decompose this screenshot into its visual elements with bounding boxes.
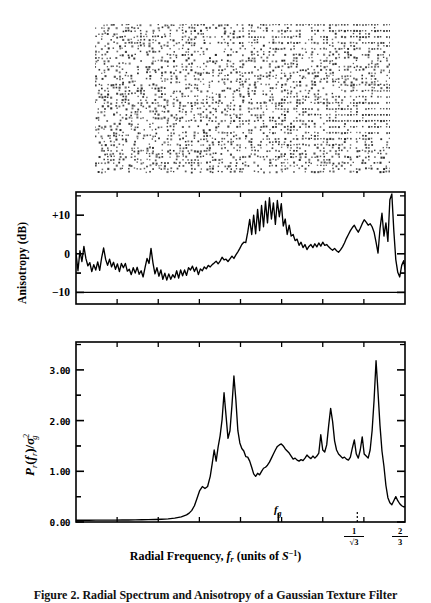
x-axis-label-var-sub: r [231,555,234,564]
x-axis-units-close: ) [297,549,301,563]
y-tick-label: 0 [64,248,70,260]
x-axis-units-exp: −1 [289,549,298,558]
tick-label-two-thirds: 2 3 [392,527,408,546]
y-tick-label: +10 [52,209,70,221]
y-tick-label: 1.00 [50,466,71,477]
anisotropy-y-axis-label: Anisotropy (dB) [16,222,28,304]
radial-spectrum-plot: Pr(fr)/σ2g 3.002.001.000.00 [0,336,431,530]
anisotropy-plot: Anisotropy (dB) +100−10 [0,186,431,311]
data-curve [76,194,405,280]
plot-frame [76,342,405,522]
x-axis-units-open: (units of [237,549,279,563]
fg-marker-label: fg [274,503,281,518]
spectrum-svg: 3.002.001.000.00 [0,336,431,530]
texture-stimulus-image [95,24,390,174]
data-curve [76,361,405,520]
figure-caption: Figure 2. Radial Spectrum and Anisotropy… [0,588,431,603]
x-axis-label: Radial Frequency, fr (units of S−1) [0,549,431,564]
spectrum-y-axis-label: Pr(fr)/σ2g [22,436,39,476]
y-tick-label: 2.00 [50,416,71,427]
x-axis-label-main: Radial Frequency, [130,549,224,563]
texture-canvas [95,24,390,174]
tick-label-inv-sqrt3: 1 √3 [344,527,364,546]
anisotropy-svg: +100−10 [0,186,431,311]
y-tick-label: −10 [52,286,70,298]
y-tick-label: 3.00 [50,365,71,376]
x-axis-units-var: S [282,549,289,563]
y-tick-label: 0.00 [50,517,71,528]
